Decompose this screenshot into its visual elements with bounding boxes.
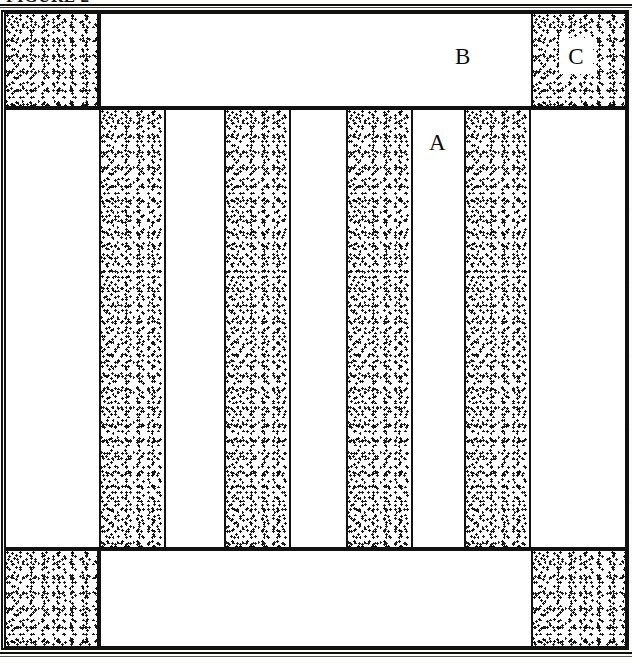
mid-stripe-8-stipple [464,108,531,549]
bottom-left-stipple-block [4,549,99,648]
horizontal-rule-top-upper [0,4,632,6]
top-left-stipple-block [4,12,99,108]
horizontal-rule-bottom-upper [0,652,632,654]
figure-caption: FIGURE 2 [6,0,90,3]
horizontal-rule-top-lower [0,7,632,8]
mid-stripe-9-white [529,108,627,549]
label-b: B [455,45,470,68]
label-a: A [429,131,446,154]
mid-stripe-4-stipple [224,108,291,549]
bottom-right-stipple-block [531,549,627,648]
mid-stripe-1-white [4,108,101,549]
mid-stripe-2-stipple [99,108,166,549]
horizontal-rule-bottom-lower [0,656,632,657]
mid-stripe-7-white [411,108,466,549]
label-c-box: C [559,38,593,74]
mid-stripe-6-stipple [346,108,413,549]
diagram-frame: B C A [1,10,629,650]
bottom-center-white-block [99,549,533,648]
label-c: C [568,45,583,68]
mid-stripe-5-white [289,108,348,549]
figure-page: FIGURE 2 B C A [0,0,632,663]
mid-stripe-3-white [164,108,226,549]
